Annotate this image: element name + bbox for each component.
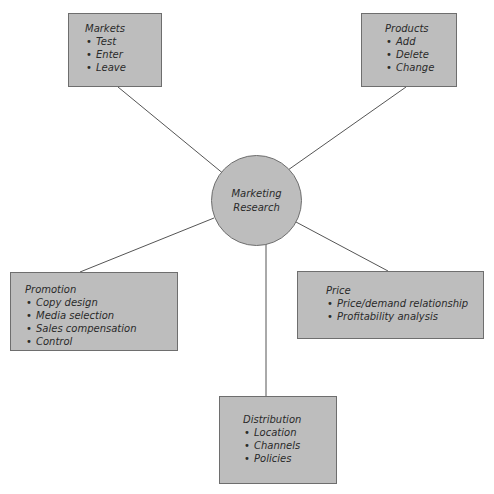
list-item: Control (25, 335, 177, 348)
list-item: Add (385, 35, 456, 48)
node-title: Promotion (25, 283, 177, 296)
center-label: Marketing Research (231, 187, 281, 215)
node-products: Products Add Delete Change (361, 13, 457, 87)
list-item: Enter (85, 48, 161, 61)
node-items: Location Channels Policies (243, 426, 336, 465)
list-item: Copy design (25, 296, 177, 309)
node-title: Price (326, 284, 483, 297)
center-label-line2: Research (231, 201, 281, 215)
node-items: Test Enter Leave (85, 35, 161, 74)
marketing-research-diagram: Markets Test Enter Leave Products Add De… (0, 0, 494, 494)
center-node-marketing-research: Marketing Research (211, 155, 302, 246)
node-items: Price/demand relationship Profitability … (326, 297, 483, 323)
connector-markets (118, 87, 225, 175)
list-item: Price/demand relationship (326, 297, 483, 310)
list-item: Change (385, 61, 456, 74)
node-title: Products (385, 22, 456, 35)
list-item: Sales compensation (25, 322, 177, 335)
node-title: Markets (85, 22, 161, 35)
connector-promotion (80, 218, 214, 272)
list-item: Policies (243, 452, 336, 465)
list-item: Media selection (25, 309, 177, 322)
node-title: Distribution (243, 413, 336, 426)
list-item: Profitability analysis (326, 310, 483, 323)
node-price: Price Price/demand relationship Profitab… (297, 271, 484, 339)
node-distribution: Distribution Location Channels Policies (219, 396, 337, 484)
list-item: Test (85, 35, 161, 48)
list-item: Delete (385, 48, 456, 61)
node-items: Copy design Media selection Sales compen… (25, 296, 177, 348)
node-items: Add Delete Change (385, 35, 456, 74)
list-item: Channels (243, 439, 336, 452)
node-markets: Markets Test Enter Leave (68, 13, 162, 87)
list-item: Leave (85, 61, 161, 74)
connector-products (288, 87, 406, 170)
node-promotion: Promotion Copy design Media selection Sa… (10, 272, 178, 351)
list-item: Location (243, 426, 336, 439)
center-label-line1: Marketing (231, 187, 281, 201)
connector-price (296, 222, 388, 271)
